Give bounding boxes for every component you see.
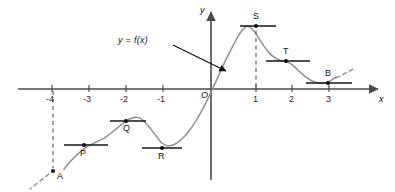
point-label-P: P	[80, 149, 86, 158]
point-P	[82, 143, 86, 147]
dashed-continuations	[30, 68, 355, 189]
point-B	[326, 81, 330, 85]
point-label-R: R	[158, 152, 165, 161]
x-tick-label-minus-1: -1	[157, 95, 165, 104]
point-label-A: A	[57, 172, 63, 181]
point-T	[284, 59, 288, 63]
function-curve	[64, 26, 336, 170]
curve-label-arrow	[173, 45, 226, 71]
point-label-S: S	[253, 12, 259, 21]
point-A	[51, 169, 55, 173]
point-R	[160, 146, 164, 150]
curve-equation-label: y = f(x)	[118, 36, 148, 45]
x-tick-label-minus-3: -3	[83, 95, 91, 104]
y-axis-label: y	[200, 6, 205, 15]
dashed-stub-A	[30, 174, 49, 189]
tangent-segments	[64, 26, 352, 148]
point-label-Q: Q	[123, 124, 130, 133]
x-tick-label-minus-4: -4	[46, 95, 54, 104]
graph-figure: x y O y = f(x) -4 -3 -2 -1 1 2 3 A P Q R…	[0, 0, 395, 192]
origin-label: O	[201, 91, 208, 100]
point-S	[254, 24, 258, 28]
dashed-stub-B	[336, 68, 355, 78]
graph-canvas	[0, 0, 395, 192]
point-label-T: T	[283, 47, 289, 56]
x-tick-label-2: 2	[289, 95, 294, 104]
x-axis-label: x	[379, 95, 384, 104]
x-tick-label-3: 3	[326, 95, 331, 104]
x-tick-label-1: 1	[253, 95, 258, 104]
x-tick-label-minus-2: -2	[120, 95, 128, 104]
point-label-B: B	[325, 69, 331, 78]
